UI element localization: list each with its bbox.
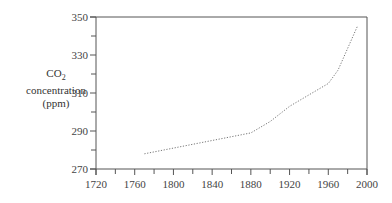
axes: 2702903103303501720176018001840188019201… — [72, 11, 379, 190]
y-tick-label: 350 — [72, 11, 89, 23]
y-tick-label: 330 — [72, 49, 89, 61]
y-tick-label: 270 — [72, 163, 89, 175]
co2-line-chart: 2702903103303501720176018001840188019201… — [0, 0, 392, 203]
y-tick-label: 290 — [72, 125, 89, 137]
y-tick-label: 310 — [72, 87, 89, 99]
x-tick-label: 1760 — [124, 178, 147, 190]
x-tick-label: 1840 — [201, 178, 224, 190]
x-tick-label: 2000 — [356, 178, 379, 190]
data-series — [144, 27, 357, 154]
x-tick-label: 1920 — [279, 178, 302, 190]
x-tick-label: 1800 — [162, 178, 185, 190]
co2-series-line — [144, 27, 357, 154]
x-tick-label: 1880 — [240, 178, 263, 190]
x-tick-label: 1720 — [85, 178, 108, 190]
x-tick-label: 1960 — [317, 178, 340, 190]
